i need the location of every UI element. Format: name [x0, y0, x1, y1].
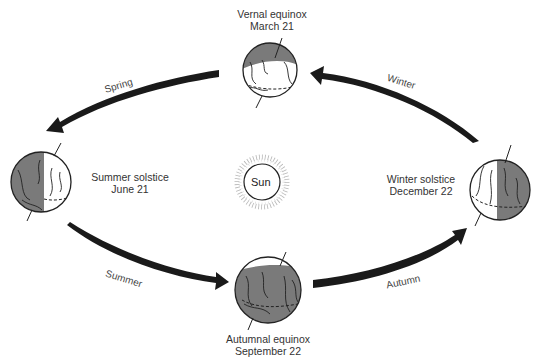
vernal-equinox-label: Vernal equinox March 21: [222, 8, 322, 32]
autumnal-equinox-title: Autumnal equinox: [216, 333, 320, 345]
arrow-summer: [67, 222, 229, 290]
globe-autumnal-equinox-icon: [234, 252, 304, 330]
summer-solstice-label: Summer solstice June 21: [80, 171, 180, 195]
autumnal-equinox-label: Autumnal equinox September 22: [216, 333, 320, 357]
autumnal-equinox-date: September 22: [216, 345, 320, 357]
summer-solstice-title: Summer solstice: [80, 171, 180, 183]
winter-solstice-label: Winter solstice December 22: [376, 173, 466, 197]
vernal-equinox-date: March 21: [222, 20, 322, 32]
arrow-spring: [46, 70, 219, 133]
winter-solstice-title: Winter solstice: [376, 173, 466, 185]
vernal-equinox-title: Vernal equinox: [222, 8, 322, 20]
winter-solstice-date: December 22: [376, 185, 466, 197]
globe-winter-solstice-icon: [470, 145, 532, 226]
summer-solstice-date: June 21: [80, 183, 180, 195]
sun-label: Sun: [251, 176, 271, 188]
globe-vernal-equinox-icon: [240, 38, 300, 108]
globe-summer-solstice-icon: [11, 143, 71, 221]
